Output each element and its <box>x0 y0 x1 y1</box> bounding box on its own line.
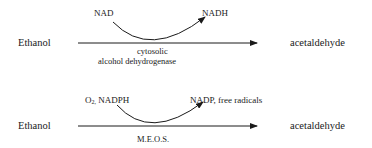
cofactor-out-2: NADP, free radicals <box>190 96 262 105</box>
product-label-1: acetaldehyde <box>290 38 345 49</box>
cofactor-in-2: O2, NADPH <box>85 96 129 105</box>
enzyme-label-1b: alcohol dehydrogenase <box>98 57 176 66</box>
enzyme-label-2: M.E.O.S. <box>137 135 169 144</box>
cofactor-arc-2 <box>117 102 203 123</box>
cofactor-in-2-rest: NADPH <box>96 95 129 105</box>
substrate-label-1: Ethanol <box>18 38 51 49</box>
product-label-2: acetaldehyde <box>290 121 345 132</box>
cofactor-in-1: NAD <box>94 9 114 18</box>
cofactor-out-1: NADH <box>202 9 228 18</box>
enzyme-label-1a: cytosolic <box>137 47 168 56</box>
cofactor-arc-1 <box>113 17 205 40</box>
substrate-label-2: Ethanol <box>18 121 51 132</box>
